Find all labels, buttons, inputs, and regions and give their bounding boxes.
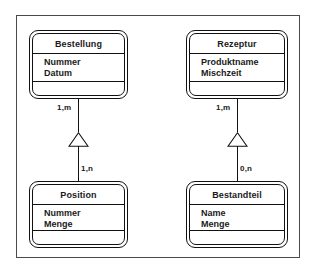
class-operations-compartment [190, 82, 284, 95]
class-attributes-compartment: Name Menge [190, 205, 284, 231]
hollow-triangle-icon [227, 132, 248, 147]
class-title-compartment: Rezeptur [190, 34, 284, 54]
class-attribute: Name [201, 208, 284, 219]
generalization-line-rezeptur-bestandteil-upper [237, 99, 238, 132]
class-attributes-compartment: Nummer Menge [33, 205, 124, 231]
class-title-compartment: Bestellung [33, 34, 124, 54]
class-attribute: Datum [44, 68, 124, 79]
diagram-frame: Bestellung Nummer Datum Rezeptur Produkt… [16, 15, 300, 258]
generalization-line-bestellung-position-lower [78, 146, 79, 182]
class-title-compartment: Position [33, 185, 124, 205]
hollow-triangle-icon [68, 132, 89, 147]
class-box-position[interactable]: Position Nummer Menge [29, 181, 128, 248]
generalization-line-bestellung-position-upper [78, 99, 79, 132]
diagram-canvas: Bestellung Nummer Datum Rezeptur Produkt… [0, 0, 316, 273]
cardinality-label-source: 1,m [57, 103, 71, 112]
class-box-bestandteil[interactable]: Bestandteil Name Menge [186, 181, 288, 248]
class-attribute: Menge [44, 219, 124, 230]
class-title-compartment: Bestandteil [190, 185, 284, 205]
class-name-position: Position [60, 190, 96, 200]
class-attribute: Nummer [44, 57, 124, 68]
class-attribute: Menge [201, 219, 284, 230]
class-box-inner: Rezeptur Produktname Mischzeit [189, 33, 285, 96]
class-operations-compartment [190, 231, 284, 244]
class-operations-compartment [33, 82, 124, 95]
class-operations-compartment [33, 231, 124, 244]
class-box-rezeptur[interactable]: Rezeptur Produktname Mischzeit [186, 30, 288, 99]
generalization-line-rezeptur-bestandteil-lower [237, 146, 238, 182]
cardinality-label-target: 0,n [240, 164, 252, 173]
class-box-inner: Position Nummer Menge [32, 184, 125, 245]
class-box-inner: Bestellung Nummer Datum [32, 33, 125, 96]
class-attribute: Mischzeit [201, 68, 284, 79]
cardinality-label-source: 1,m [216, 103, 230, 112]
class-box-inner: Bestandteil Name Menge [189, 184, 285, 245]
class-attributes-compartment: Produktname Mischzeit [190, 54, 284, 82]
class-name-bestandteil: Bestandteil [212, 190, 262, 200]
cardinality-label-target: 1,n [81, 164, 93, 173]
class-box-bestellung[interactable]: Bestellung Nummer Datum [29, 30, 128, 99]
class-attribute: Produktname [201, 57, 284, 68]
class-name-rezeptur: Rezeptur [217, 39, 256, 49]
class-attribute: Nummer [44, 208, 124, 219]
class-name-bestellung: Bestellung [55, 39, 102, 49]
class-attributes-compartment: Nummer Datum [33, 54, 124, 82]
